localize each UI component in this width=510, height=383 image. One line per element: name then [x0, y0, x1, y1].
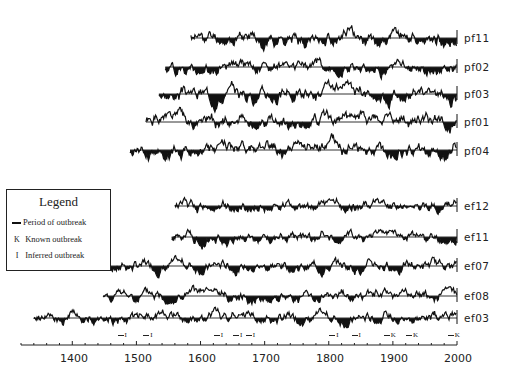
x-tick-label: 1800: [316, 352, 344, 365]
known-symbol: K: [11, 235, 23, 244]
x-tick-label: 2000: [444, 352, 472, 365]
series-label: ef07: [464, 260, 490, 272]
series-label: ef08: [464, 290, 490, 302]
series-label: ef12: [464, 200, 490, 212]
inferred-outbreak-marker: I: [352, 331, 361, 339]
x-tick-label: 1700: [252, 352, 280, 365]
legend-entry-inferred: I Inferred outbreak: [11, 250, 84, 260]
inferred-outbreak-marker: I: [233, 331, 242, 339]
inferred-outbreak-marker: I: [329, 331, 338, 339]
known-outbreak-marker: K: [384, 331, 396, 339]
series-label: ef03: [464, 312, 490, 324]
known-outbreak-marker: K: [448, 331, 460, 339]
series-ef07: [104, 256, 457, 278]
inferred-outbreak-marker: I: [143, 331, 152, 339]
legend-entry-known: K Known outbreak: [11, 234, 82, 244]
legend-title: Legend: [7, 194, 110, 210]
series-pf04: [130, 133, 457, 160]
series-label: pf04: [464, 145, 490, 157]
inferred-outbreak-marker: I: [118, 331, 127, 339]
inferred-symbol: I: [11, 251, 23, 260]
known-outbreak-marker: K: [406, 331, 418, 339]
legend-entry-period: Period of outbreak: [11, 217, 86, 227]
series-pf02: [165, 58, 457, 79]
inferred-outbreak-marker: I: [214, 331, 223, 339]
series-label: pf03: [464, 88, 490, 100]
series-label: pf01: [464, 116, 490, 128]
series-ef08: [103, 285, 457, 304]
series-ef03: [34, 307, 457, 328]
inferred-outbreak-marker: I: [246, 331, 255, 339]
series-label: ef11: [464, 231, 490, 243]
x-tick-label: 1500: [124, 352, 152, 365]
series-pf01: [146, 107, 457, 133]
legend-box: Legend Period of outbreak K Known outbre…: [6, 189, 111, 271]
series-ef11: [172, 229, 457, 249]
x-axis: [21, 341, 457, 345]
series-ef12: [175, 198, 457, 215]
series-pf11: [191, 25, 457, 50]
x-tick-label: 1900: [380, 352, 408, 365]
series-label: pf02: [464, 61, 490, 73]
dash-icon: [12, 222, 21, 224]
series-pf03: [159, 80, 457, 112]
x-tick-label: 1600: [188, 352, 216, 365]
x-tick-label: 1400: [60, 352, 88, 365]
series-label: pf11: [464, 32, 490, 44]
